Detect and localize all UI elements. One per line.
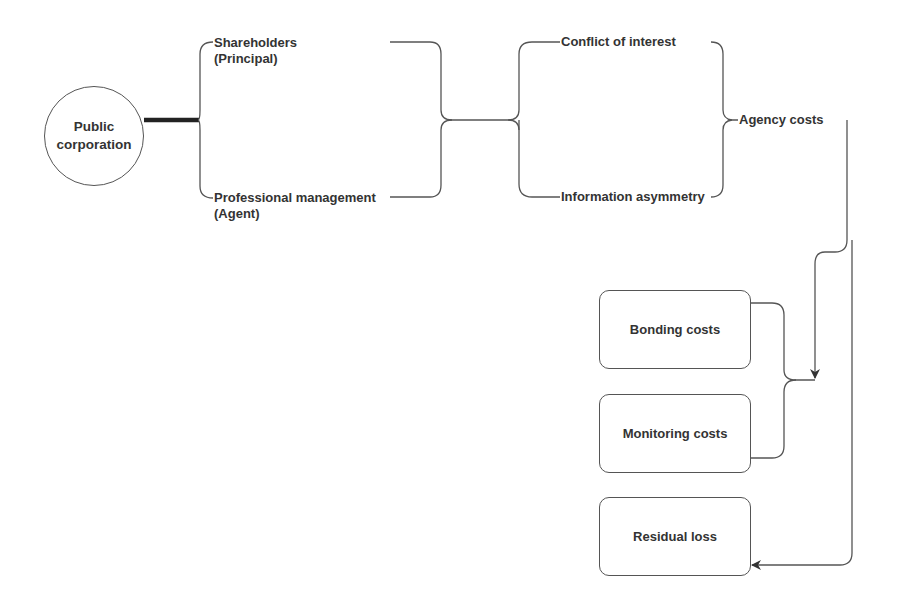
box-monitoring-costs: Monitoring costs — [599, 394, 751, 473]
parties-to-problems-connector — [390, 42, 560, 120]
box-monitoring-costs-label: Monitoring costs — [623, 426, 728, 441]
agency-to-residual-arrow — [752, 240, 852, 565]
box-bonding-costs: Bonding costs — [599, 290, 751, 369]
node-public-corporation: Public corporation — [44, 86, 144, 186]
label-shareholders-line1: Shareholders — [214, 35, 297, 51]
box-residual-loss-label: Residual loss — [633, 529, 717, 544]
label-management-line1: Professional management — [214, 190, 376, 206]
label-shareholders-line2: (Principal) — [214, 51, 297, 67]
agency-to-bonding-monitoring-arrow — [815, 120, 847, 378]
label-information-asymmetry: Information asymmetry — [561, 189, 705, 205]
label-shareholders: Shareholders (Principal) — [214, 35, 297, 67]
box-bonding-costs-label: Bonding costs — [630, 322, 720, 337]
parties-bracket — [198, 42, 213, 198]
label-agency-costs: Agency costs — [739, 112, 824, 128]
node-public-corporation-label: Public corporation — [56, 118, 131, 154]
bonding-monitoring-bracket — [750, 303, 815, 380]
diagram-connectors — [0, 0, 897, 600]
label-management-line2: (Agent) — [214, 206, 376, 222]
label-professional-management: Professional management (Agent) — [214, 190, 376, 222]
label-conflict-of-interest: Conflict of interest — [561, 34, 676, 50]
problems-bracket — [711, 42, 738, 120]
box-residual-loss: Residual loss — [599, 497, 751, 576]
